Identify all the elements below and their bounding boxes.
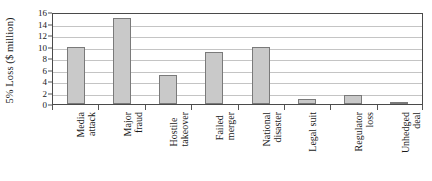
x-tick-mark: [377, 105, 378, 110]
x-axis-label: Regulatorloss: [353, 112, 375, 151]
y-axis-title-text: 5% Loss ($ million): [4, 17, 15, 103]
bar-slot: [191, 14, 237, 104]
x-axis-label-line: takeover: [179, 112, 190, 146]
x-axis-label: Failedmerger: [214, 112, 236, 140]
bar-slot: [330, 14, 376, 104]
x-axis-label-line: Unhedged: [400, 112, 411, 153]
x-axis-label: Mediaattack: [75, 112, 97, 138]
y-tick-label: 2: [43, 89, 48, 98]
x-label-slot: Hostiletakeover: [145, 112, 191, 181]
y-tick-label: 4: [43, 78, 48, 87]
bars-layer: [53, 14, 422, 104]
bar[interactable]: [344, 95, 362, 104]
x-tick-mark: [98, 105, 99, 110]
x-label-slot: Failedmerger: [191, 112, 237, 181]
bar-slot: [284, 14, 330, 104]
x-axis-label-line: National: [261, 112, 272, 146]
x-axis-label-line: Major: [122, 112, 133, 136]
y-tick-label: 10: [38, 43, 47, 52]
y-tick-label: 16: [38, 9, 47, 18]
x-tick-cell: [330, 105, 376, 111]
x-axis-label-line: Failed: [214, 112, 225, 140]
bar[interactable]: [298, 99, 316, 104]
x-axis-label: Hostiletakeover: [168, 112, 190, 146]
x-label-slot: Mediaattack: [52, 112, 98, 181]
x-axis-label-line: Hostile: [168, 112, 179, 146]
bar-slot: [99, 14, 145, 104]
x-label-slot: Legal suit: [284, 112, 330, 181]
x-axis-label-line: Legal suit: [307, 112, 318, 152]
y-tick-label: 14: [38, 20, 47, 29]
bar-slot: [238, 14, 284, 104]
bar-chart-figure: 5% Loss ($ million) 0246810121416 Mediaa…: [0, 0, 432, 181]
bar[interactable]: [67, 47, 85, 105]
x-axis-label-line: Regulator: [353, 112, 364, 151]
bar[interactable]: [205, 52, 223, 104]
x-tick-cell: [145, 105, 191, 111]
x-axis-label-line: disaster: [272, 112, 283, 146]
bar-slot: [53, 14, 99, 104]
x-axis-label: Unhedgeddeal: [400, 112, 422, 153]
x-axis-label: Majorfraud: [122, 112, 144, 136]
bar-slot: [145, 14, 191, 104]
x-tick-cell: [238, 105, 284, 111]
x-label-slot: Regulatorloss: [330, 112, 376, 181]
bar[interactable]: [390, 102, 408, 104]
bar[interactable]: [159, 75, 177, 104]
x-axis-ticks: [52, 105, 423, 111]
x-axis-label: Nationaldisaster: [261, 112, 283, 146]
bar-slot: [376, 14, 422, 104]
x-axis-label-line: attack: [86, 112, 97, 138]
x-tick-cell: [191, 105, 237, 111]
y-axis-title: 5% Loss ($ million): [0, 0, 18, 120]
plot-area: [52, 13, 423, 105]
x-label-slot: Nationaldisaster: [238, 112, 284, 181]
x-tick-mark: [191, 105, 192, 110]
x-tick-mark: [238, 105, 239, 110]
y-tick-label: 6: [43, 66, 48, 75]
x-label-slot: Unhedgeddeal: [377, 112, 423, 181]
x-axis-label-line: Media: [75, 112, 86, 138]
x-tick-cell: [377, 105, 423, 111]
x-axis-label-line: loss: [364, 112, 375, 151]
x-axis-label-line: fraud: [133, 112, 144, 136]
x-tick-cell: [98, 105, 144, 111]
x-tick-mark: [422, 105, 423, 110]
x-axis-labels: MediaattackMajorfraudHostiletakeoverFail…: [52, 112, 423, 181]
x-tick-mark: [284, 105, 285, 110]
x-label-slot: Majorfraud: [98, 112, 144, 181]
x-axis-label: Legal suit: [307, 112, 318, 152]
bar[interactable]: [113, 18, 131, 104]
y-axis-tick-labels: 0246810121416: [22, 13, 52, 105]
x-axis-label-line: deal: [411, 112, 422, 153]
bar[interactable]: [252, 47, 270, 105]
x-tick-mark: [52, 105, 53, 110]
y-tick-label: 8: [43, 55, 48, 64]
x-axis-label-line: merger: [225, 112, 236, 140]
x-tick-mark: [145, 105, 146, 110]
y-tick-label: 0: [43, 101, 48, 110]
x-tick-cell: [52, 105, 98, 111]
y-tick-label: 12: [38, 32, 47, 41]
x-tick-cell: [284, 105, 330, 111]
x-tick-mark: [330, 105, 331, 110]
